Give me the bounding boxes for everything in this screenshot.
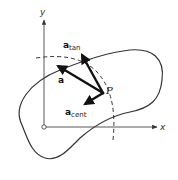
point-p xyxy=(102,92,105,95)
point-p-label: P xyxy=(105,85,113,96)
vector-a-tan-label: atan xyxy=(63,40,81,52)
vector-a-cent xyxy=(85,93,103,104)
y-axis-label: y xyxy=(39,7,46,17)
vector-a-cent-subscript: cent xyxy=(71,111,87,119)
osculating-circle-arc xyxy=(36,57,114,141)
vector-a-cent-label: acent xyxy=(65,107,87,119)
acceleration-diagram: y x P atan a acent xyxy=(0,0,178,180)
vector-a-label: a xyxy=(58,75,64,85)
x-axis-label: x xyxy=(159,122,166,132)
origin-point xyxy=(42,125,46,129)
vector-a-tan-subscript: tan xyxy=(69,44,80,52)
